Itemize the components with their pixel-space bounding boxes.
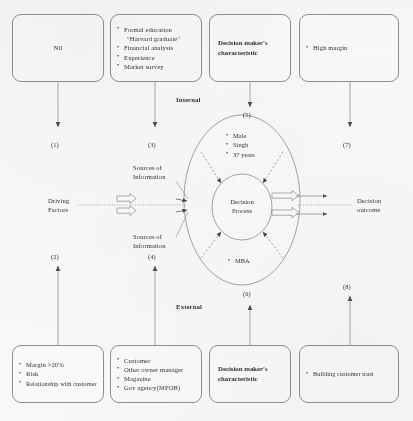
zone-label-external: External [176,302,202,311]
decision-process-label: Decision Process [212,197,272,215]
box-building-trust-list: Building customer trust [300,369,398,378]
box-building-customer-trust: Building customer trust [299,345,399,403]
connector-number-1: (1) [51,140,59,149]
box-characteristic-top-text: Decision maker's characteristic [210,38,290,57]
block-arrow-input-upper [117,194,136,204]
connector-number-8: (8) [343,282,351,291]
figure-canvas: Nil Formal education "Harvard graduate" … [0,0,413,421]
box-margin-risk: Margin >20% Risk Relationship with custo… [12,345,104,403]
connector-number-7: (7) [343,140,351,149]
label-driving-factors: Driving Factors [48,196,69,214]
list-item: Customer [124,356,199,365]
list-item: Experience [124,53,199,62]
box-sources-list: Customer Other owner manager Magazine Go… [111,356,201,393]
box-decision-maker-characteristic-top: Decision maker's characteristic [209,14,291,82]
list-item: High margin [313,43,396,52]
ellipse-top-attributes: Male Singh 37 years [226,131,255,159]
list-item: Relationship with customer [26,379,101,388]
box-nil-text: Nil [54,43,63,52]
box-margin-risk-list: Margin >20% Risk Relationship with custo… [13,360,103,388]
list-item: Male [226,131,255,140]
connector-number-4: (4) [148,252,156,261]
connector-number-3: (3) [148,140,156,149]
list-item: 37 years [226,150,255,159]
list-item: Other owner manager [124,365,199,374]
zone-label-internal: Internal [176,95,201,104]
list-item: Gov agency(MPOB) [124,383,199,392]
box-high-margin-list: High margin [300,43,398,52]
label-sources-of-information-upper: Sources of Information [133,163,166,181]
connector-number-2: (2) [51,252,59,261]
box-decision-maker-characteristic-bottom: Decision maker's characteristic [209,345,291,403]
connector-number-6: (6) [243,289,251,298]
list-item: Financial analysis [124,43,199,52]
list-item: Singh [226,140,255,149]
box-high-margin: High margin [299,14,399,82]
box-formal-education: Formal education "Harvard graduate" Fina… [110,14,202,82]
block-arrow-input-lower [117,206,136,216]
box-sources: Customer Other owner manager Magazine Go… [110,345,202,403]
label-decision-outcome: Decision outcome [357,196,381,214]
list-item: Magazine [124,374,199,383]
list-item: Market survey [124,62,199,71]
list-item: Margin >20% [26,360,101,369]
box-characteristic-bottom-text: Decision maker's characteristic [210,364,290,383]
box-nil: Nil [12,14,104,82]
ellipse-bottom-attributes: MBA [228,256,250,265]
box-formal-education-list: Formal education "Harvard graduate" Fina… [111,25,201,71]
connector-number-5: (5) [243,110,251,119]
list-item: MBA [228,256,250,265]
list-item: Risk [26,369,101,378]
list-item: Formal education "Harvard graduate" [124,25,199,43]
list-item: Building customer trust [313,369,396,378]
label-sources-of-information-lower: Sources of Information [133,232,166,250]
